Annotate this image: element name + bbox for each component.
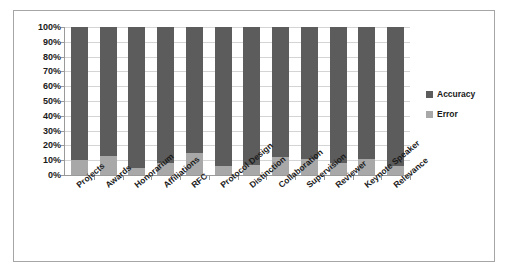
x-axis-tick-mark (151, 176, 152, 180)
y-axis-tick-label: 30% (19, 126, 61, 135)
y-axis-tick-label: 50% (19, 97, 61, 106)
y-axis-tick-mark (61, 145, 65, 146)
bar-segment-accuracy (387, 27, 404, 166)
legend-item[interactable]: Accuracy (426, 90, 492, 99)
x-axis-tick-mark (266, 176, 267, 180)
x-axis-tick-mark (238, 176, 239, 180)
y-axis-tick-label: 80% (19, 52, 61, 61)
y-axis-tick-label: 40% (19, 111, 61, 120)
legend-item-label: Error (437, 110, 458, 119)
y-axis-tick-mark (61, 27, 65, 28)
y-axis-tick-mark (61, 175, 65, 176)
y-axis-tick-label: 70% (19, 67, 61, 76)
y-axis-labels: 100%90%80%70%60%50%40%30%20%10%0% (14, 11, 61, 261)
bar-segment-accuracy (71, 27, 88, 160)
x-axis-tick-mark (123, 176, 124, 180)
legend-item-label: Accuracy (437, 90, 475, 99)
bar-segment-accuracy (215, 27, 232, 166)
y-axis-tick-label: 0% (19, 171, 61, 180)
bar-segment-accuracy (358, 27, 375, 159)
plot-area (65, 27, 410, 175)
legend-swatch-icon (426, 91, 433, 98)
bar-segment-accuracy (272, 27, 289, 157)
bar-segment-accuracy (157, 27, 174, 163)
x-axis-tick-mark (209, 176, 210, 180)
y-axis-tick-mark (61, 57, 65, 58)
bar-segment-accuracy (301, 27, 318, 159)
bar-segment-accuracy (100, 27, 117, 156)
x-axis-tick-mark (295, 176, 296, 180)
bar-segment-accuracy (243, 27, 260, 165)
y-axis-tick-mark (61, 86, 65, 87)
legend-swatch-icon (426, 111, 433, 118)
chart-frame: 100%90%80%70%60%50%40%30%20%10%0% Projec… (13, 10, 495, 262)
y-axis-tick-mark (61, 160, 65, 161)
y-axis-tick-label: 60% (19, 82, 61, 91)
bar-segment-accuracy (186, 27, 203, 153)
x-axis-tick-mark (180, 176, 181, 180)
y-axis-tick-label: 90% (19, 37, 61, 46)
legend-item[interactable]: Error (426, 110, 492, 119)
x-axis-tick-mark (94, 176, 95, 180)
bar-segment-accuracy (330, 27, 347, 163)
x-axis-tick-mark (324, 176, 325, 180)
y-axis-tick-mark (61, 116, 65, 117)
bar-segment-accuracy (128, 27, 145, 168)
y-axis-tick-mark (61, 42, 65, 43)
y-axis-tick-mark (61, 71, 65, 72)
y-axis-tick-label: 20% (19, 141, 61, 150)
x-axis-tick-mark (353, 176, 354, 180)
y-axis-tick-label: 100% (19, 23, 61, 32)
x-axis-tick-mark (410, 176, 411, 180)
y-axis-tick-mark (61, 101, 65, 102)
y-axis-tick-mark (61, 131, 65, 132)
x-axis-tick-mark (381, 176, 382, 180)
chart-legend: AccuracyError (426, 90, 492, 130)
y-axis-tick-label: 10% (19, 156, 61, 165)
